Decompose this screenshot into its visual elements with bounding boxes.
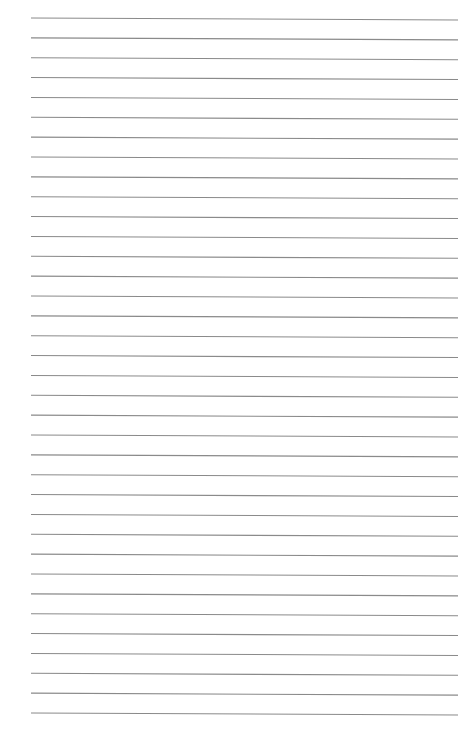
ruled-line xyxy=(31,217,458,219)
ruled-line xyxy=(31,534,458,536)
ruled-line xyxy=(31,256,458,258)
ruled-line xyxy=(31,574,458,576)
ruled-lines xyxy=(0,0,461,735)
ruled-line xyxy=(31,177,458,179)
ruled-line xyxy=(31,117,458,119)
ruled-line xyxy=(31,375,458,377)
ruled-line xyxy=(31,236,458,238)
ruled-line xyxy=(31,316,458,318)
ruled-line xyxy=(31,495,458,497)
ruled-line xyxy=(31,693,458,695)
ruled-line xyxy=(31,475,458,477)
ruled-line xyxy=(31,276,458,278)
ruled-line xyxy=(31,554,458,556)
ruled-line xyxy=(31,395,458,397)
ruled-line xyxy=(31,18,458,20)
ruled-line xyxy=(31,614,458,616)
ruled-line xyxy=(31,356,458,358)
ruled-line xyxy=(31,97,458,99)
ruled-line xyxy=(31,514,458,516)
ruled-line xyxy=(31,455,458,457)
ruled-line xyxy=(31,336,458,338)
ruled-line xyxy=(31,594,458,596)
ruled-line xyxy=(31,296,458,298)
ruled-line xyxy=(31,137,458,139)
ruled-line xyxy=(31,197,458,199)
ruled-line xyxy=(31,415,458,417)
ruled-line xyxy=(31,634,458,636)
ruled-line xyxy=(31,713,458,715)
ruled-page xyxy=(0,0,461,735)
ruled-line xyxy=(31,38,458,40)
ruled-line xyxy=(31,435,458,437)
ruled-line xyxy=(31,58,458,60)
ruled-line xyxy=(31,653,458,655)
ruled-line xyxy=(31,157,458,159)
ruled-line xyxy=(31,673,458,675)
ruled-line xyxy=(31,78,458,80)
